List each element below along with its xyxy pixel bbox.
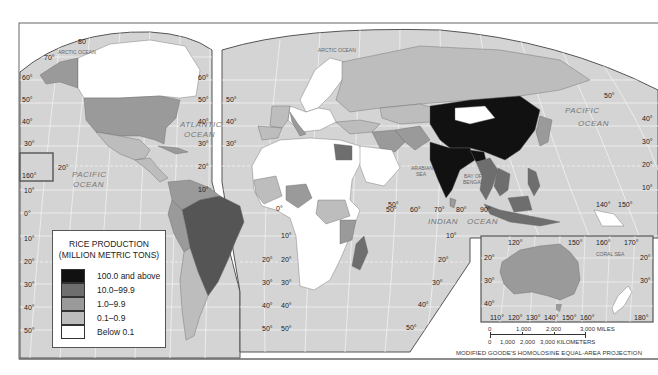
lat-label: 30° xyxy=(642,138,653,145)
lat-label: 10° xyxy=(642,184,653,191)
legend-item: 0.1–0.9 xyxy=(61,311,160,325)
lat-label: 50° xyxy=(226,96,237,103)
scale-km-tick: 1,000 xyxy=(500,339,515,345)
inset-bottom-lon: 160° xyxy=(580,314,595,321)
legend-title: RICE PRODUCTION (MILLION METRIC TONS) xyxy=(53,239,165,261)
lat-label: 40° xyxy=(281,302,292,309)
scale-km-tick: 2,000 xyxy=(520,339,535,345)
scale-miles-tick: 1,000 xyxy=(516,326,531,332)
lat-label: 70° xyxy=(44,54,55,61)
inset-bottom-lon: 120° xyxy=(508,314,523,321)
lat-label: 20° xyxy=(24,258,35,265)
inset-left-lat: 30° xyxy=(484,277,495,284)
lat-label: 10° xyxy=(446,232,457,239)
inset-left-lat: 40° xyxy=(484,300,495,307)
arctic-ocean-label-west: ARCTIC OCEAN xyxy=(58,49,96,55)
lat-label: 30° xyxy=(281,279,292,286)
lon-label: 60° xyxy=(410,206,421,213)
lat-label: 50° xyxy=(198,96,209,103)
map-legend: RICE PRODUCTION (MILLION METRIC TONS) 10… xyxy=(52,230,166,348)
lat-label: 10° xyxy=(24,187,35,194)
scale-km-tick: 3,000 KILOMETERS xyxy=(540,339,595,345)
inset-top-lon: 160° xyxy=(596,239,611,246)
lon-label: 150° xyxy=(618,201,633,208)
lat-label: 50° xyxy=(604,92,615,99)
lat-label: 40° xyxy=(642,115,653,122)
lon-label: 160° xyxy=(22,172,37,179)
coral-sea-label: CORAL SEA xyxy=(596,251,625,257)
legend-swatch xyxy=(61,311,85,325)
pacific-ocean-label-west: OCEAN xyxy=(73,180,104,189)
lon-label: 70° xyxy=(434,206,445,213)
lat-label: 20° xyxy=(438,256,449,263)
inset-top-lon: 150° xyxy=(568,239,583,246)
legend-swatch xyxy=(61,325,85,339)
lat-label: 50° xyxy=(281,325,292,332)
lat-label: 20° xyxy=(262,256,273,263)
lat-label: 30° xyxy=(226,140,237,147)
legend-label: 0.1–0.9 xyxy=(97,313,125,323)
inset-bottom-lon: 130° xyxy=(526,314,541,321)
arctic-ocean-label-east: ARCTIC OCEAN xyxy=(318,47,356,53)
lat-label: 50° xyxy=(22,96,33,103)
inset-top-lon: 170° xyxy=(624,239,639,246)
inset-bottom-lon: 180° xyxy=(634,314,649,321)
lat-label: 40° xyxy=(226,118,237,125)
lat-label: 40° xyxy=(198,118,209,125)
legend-label: 10.0–99.9 xyxy=(97,285,135,295)
arabian-sea-label: SEA xyxy=(416,171,427,177)
lat-label: 0° xyxy=(24,210,31,217)
inset-bottom-lon: 110° xyxy=(490,314,504,321)
lon-label: 90° xyxy=(480,206,491,213)
lat-label: 40° xyxy=(24,304,35,311)
legend-swatch xyxy=(61,283,85,297)
projection-label: MODIFIED GOODE'S HOMOLOSINE EQUAL-AREA P… xyxy=(456,350,642,356)
inset-top-lon: 120° xyxy=(508,239,523,246)
lat-label: 50° xyxy=(262,325,273,332)
lat-label: 50° xyxy=(406,324,417,331)
scale-km-tick: 0 xyxy=(488,339,491,345)
lat-label: 30° xyxy=(432,279,443,286)
lat-label: 10° xyxy=(24,235,35,242)
pacific-ocean-label-east: PACIFIC xyxy=(565,106,599,115)
inset-bottom-lon: 150° xyxy=(562,314,577,321)
legend-title-line2: (MILLION METRIC TONS) xyxy=(53,250,165,261)
lon-label: 50° xyxy=(386,206,397,213)
lat-label: 30° xyxy=(262,279,273,286)
egypt xyxy=(334,144,352,160)
bay-of-bengal-label: BENGAL xyxy=(463,179,484,185)
legend-title-line1: RICE PRODUCTION xyxy=(53,239,165,250)
lon-label: 80° xyxy=(456,206,467,213)
inset-left-lat: 20° xyxy=(484,254,495,261)
lat-label: 10° xyxy=(198,186,209,193)
legend-item: 1.0–9.9 xyxy=(61,297,160,311)
lat-label: 30° xyxy=(24,140,35,147)
legend-label: 100.0 and above xyxy=(97,271,160,281)
lat-label: 60° xyxy=(198,74,209,81)
lat-label: 20° xyxy=(642,161,653,168)
inset-bottom-lon: 140° xyxy=(544,314,559,321)
lat-label: 20° xyxy=(58,164,69,171)
inset-right-lat: 30° xyxy=(640,277,651,284)
legend-swatch xyxy=(61,297,85,311)
legend-items: 100.0 and above 10.0–99.9 1.0–9.9 0.1–0.… xyxy=(61,269,160,339)
legend-label: Below 0.1 xyxy=(97,327,134,337)
lat-label: 40° xyxy=(262,302,273,309)
legend-item: 100.0 and above xyxy=(61,269,160,283)
lat-label: 20° xyxy=(281,256,292,263)
legend-swatch xyxy=(61,269,85,283)
indian-ocean-label: INDIAN xyxy=(428,217,458,226)
lat-label: 60° xyxy=(22,74,33,81)
pacific-ocean-label-east: OCEAN xyxy=(578,119,609,128)
atlantic-ocean-label: OCEAN xyxy=(184,130,215,139)
inset-right-lat: 20° xyxy=(640,254,651,261)
lat-label: 50° xyxy=(24,327,35,334)
lat-label: 30° xyxy=(24,281,35,288)
scale-bar: 0 1,000 2,000 3,000 MILES 0 1,000 2,000 … xyxy=(484,326,644,347)
lat-label: 10° xyxy=(281,232,292,239)
lat-label: 40° xyxy=(22,118,33,125)
legend-label: 1.0–9.9 xyxy=(97,299,125,309)
legend-item: Below 0.1 xyxy=(61,325,160,339)
lat-label: 40° xyxy=(418,301,429,308)
lat-label: 20° xyxy=(198,163,209,170)
